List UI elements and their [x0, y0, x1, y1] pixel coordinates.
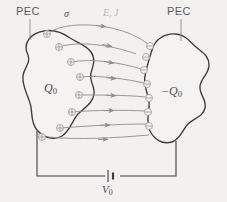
field-line-7 [60, 124, 147, 128]
negative-charge [146, 95, 153, 102]
charge-right-symbol: −Q [161, 84, 178, 98]
voltage-label: V0 [102, 184, 113, 197]
pec-right-label: PEC [167, 6, 191, 17]
charge-right-label: −Q0 [161, 85, 182, 99]
figure-container: PEC PEC σ E, J Q0 −Q0 V0 [0, 0, 227, 202]
battery-symbol [108, 170, 113, 182]
positive-charge [56, 44, 63, 51]
conductivity-label: σ [64, 9, 69, 19]
charge-left-label: Q0 [44, 82, 57, 96]
pec-left-label: PEC [16, 6, 40, 17]
positive-charge [39, 134, 46, 141]
charge-left-subscript: 0 [53, 86, 57, 96]
positive-charge [68, 59, 75, 66]
positive-charge [44, 31, 51, 38]
voltage-symbol: V [102, 183, 109, 195]
positive-charge [77, 74, 84, 81]
charge-left-symbol: Q [44, 81, 53, 95]
wire-right [120, 141, 176, 176]
negative-charge [146, 123, 153, 130]
negative-charge [144, 81, 151, 88]
voltage-subscript: 0 [109, 188, 113, 197]
field-arrowheads [96, 26, 116, 140]
positive-charge [57, 125, 64, 132]
positive-charge [69, 109, 76, 116]
field-label: E, J [103, 8, 119, 18]
positive-charge [76, 92, 83, 99]
negative-charge [145, 109, 152, 116]
negative-charge [147, 43, 154, 50]
diagram-canvas [0, 0, 227, 202]
negative-charge [143, 54, 150, 61]
charge-right-subscript: 0 [178, 89, 182, 99]
negative-charge [141, 67, 148, 74]
